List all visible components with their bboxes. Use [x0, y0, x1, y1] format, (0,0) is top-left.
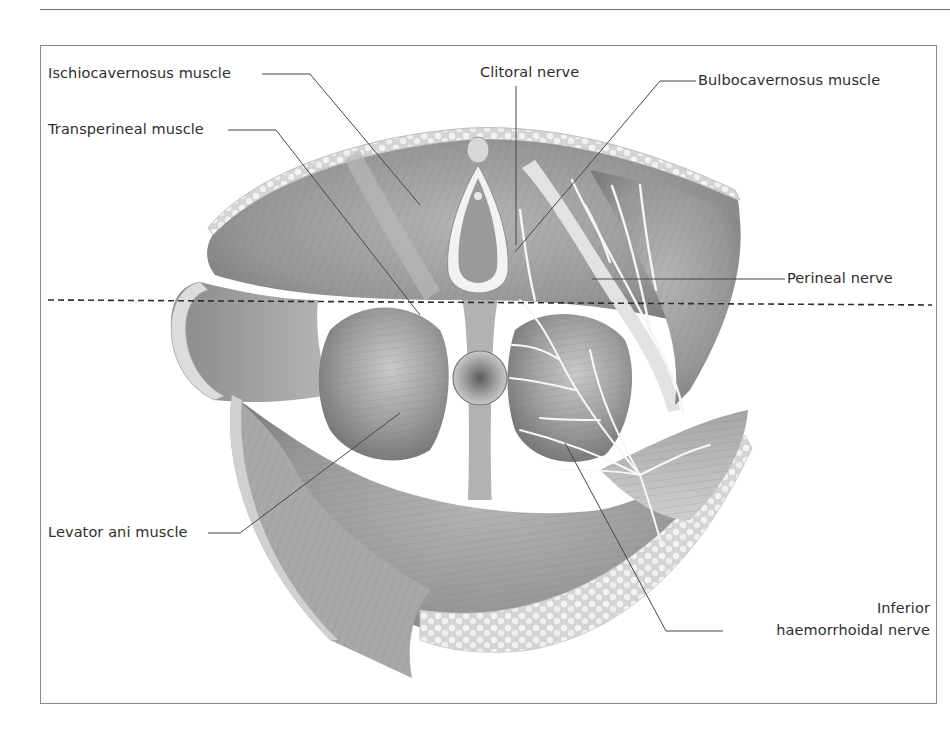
label-ischiocavernosus-muscle: Ischiocavernosus muscle: [48, 65, 231, 82]
label-transperineal-muscle: Transperineal muscle: [48, 121, 204, 138]
label-perineal-nerve: Perineal nerve: [787, 270, 893, 287]
label-clitoral-nerve: Clitoral nerve: [480, 64, 579, 81]
label-levator-ani-muscle: Levator ani muscle: [48, 524, 188, 541]
label-bulbocavernosus-muscle: Bulbocavernosus muscle: [698, 72, 880, 89]
label-inferior-haemorrhoidal-line2: haemorrhoidal nerve: [776, 622, 930, 639]
label-inferior-haemorrhoidal-line1: Inferior: [877, 600, 930, 617]
anus: [453, 351, 507, 405]
clitoris: [467, 137, 489, 163]
